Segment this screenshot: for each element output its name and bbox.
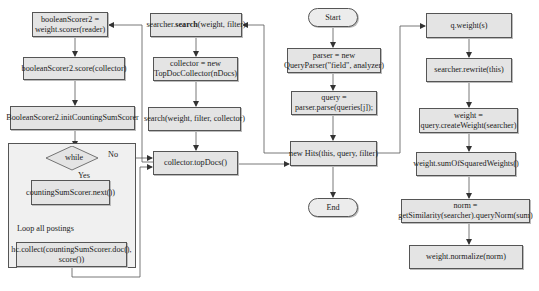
create-weight-line1: weight = (454, 111, 483, 121)
sum-squared-box: weight.sumOfSquaredWeights() (416, 152, 516, 176)
query-parse-line2: parser.parse(queries[j]); (295, 103, 373, 113)
q-weight-label: q.weight(s) (450, 21, 487, 31)
normalize-box: weight.normalize(norm) (409, 245, 523, 269)
collector-new-line1: collector = new (170, 59, 221, 69)
scorer-assign-line1: booleanScorer2 = (41, 15, 99, 25)
collect-call-box: hc.collect(countingSumScorer.doc(), scor… (16, 242, 127, 267)
score-call-box: booleanScorer2.score(collector) (23, 57, 125, 80)
start-terminal: Start (308, 8, 358, 27)
scorer-assign-box: booleanScorer2 = weight.scorer(reader) (32, 12, 108, 37)
norm-box: norm = getSimilarity(searcher).queryNorm… (401, 199, 530, 223)
rewrite-label: searcher.rewrite(this) (434, 65, 503, 75)
collect-call-line1: hc.collect(countingSumScorer.doc(), (11, 245, 131, 255)
norm-line1: norm = (454, 201, 478, 211)
parser-new-line1: parser = new (313, 51, 355, 61)
next-call-label: countingSumScorer.next()) (26, 188, 115, 198)
scorer-assign-line2: weight.scorer(reader) (35, 25, 105, 35)
collector-new-line2: TopDocCollector(nDocs) (154, 69, 237, 79)
search-with-collector-box: search(weight, filter, collector) (148, 107, 241, 131)
parser-new-line2: QueryParser("field", analyzer) (284, 61, 384, 71)
yes-label: Yes (78, 171, 90, 180)
collect-call-line2: score()) (59, 255, 84, 265)
end-terminal: End (308, 198, 358, 217)
searcher-search-suffix: (weight, filter) (198, 20, 246, 30)
sum-squared-label: weight.sumOfSquaredWeights() (413, 159, 519, 169)
init-counting-box: BooleanScorer2.initCountingSumScorer (10, 106, 135, 130)
query-parse-line1: query = (321, 93, 346, 103)
searcher-search-box: searcher.search(weight, filter) (150, 13, 242, 37)
parser-new-box: parser = new QueryParser("field", analyz… (287, 48, 381, 73)
top-docs-box: collector.topDocs() (153, 151, 238, 175)
init-counting-label: BooleanScorer2.initCountingSumScorer (6, 113, 139, 123)
next-call-box: countingSumScorer.next()) (31, 180, 110, 205)
create-weight-box: weight = query.createWeight(searcher) (419, 108, 518, 133)
normalize-label: weight.normalize(norm) (426, 252, 506, 262)
start-label: Start (325, 13, 340, 23)
create-weight-line2: query.createWeight(searcher) (421, 121, 517, 131)
top-docs-label: collector.topDocs() (164, 158, 227, 168)
end-label: End (326, 203, 339, 213)
q-weight-box: q.weight(s) (426, 13, 512, 38)
new-hits-box: new Hits(this, query, filter) (290, 141, 377, 166)
score-call-label: booleanScorer2.score(collector) (22, 64, 127, 74)
loop-all-postings-label: Loop all postings (17, 224, 74, 233)
searcher-search-prefix: searcher. (146, 20, 175, 30)
new-hits-label: new Hits(this, query, filter) (289, 149, 378, 159)
norm-line2: getSimilarity(searcher).queryNorm(sum) (398, 211, 532, 221)
search-with-collector-label: search(weight, filter, collector) (144, 114, 245, 124)
while-label: while (65, 153, 83, 162)
rewrite-box: searcher.rewrite(this) (426, 58, 512, 82)
collector-new-box: collector = new TopDocCollector(nDocs) (153, 57, 238, 81)
no-label: No (108, 150, 118, 159)
query-parse-box: query = parser.parse(queries[j]); (291, 91, 377, 115)
searcher-search-bold: search (175, 20, 198, 30)
